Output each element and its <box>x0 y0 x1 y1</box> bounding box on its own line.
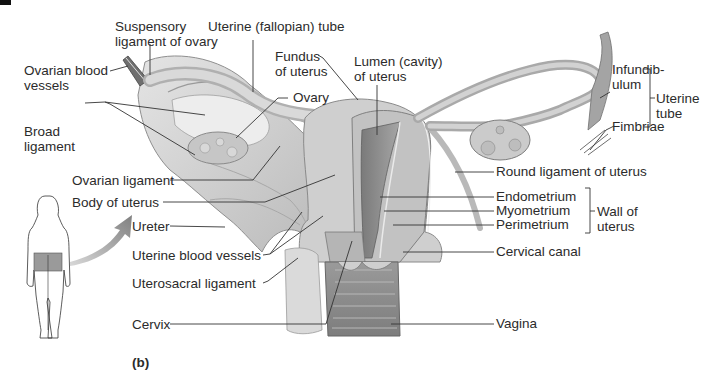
label-line: uterus <box>597 219 638 234</box>
label-infundibulum: Infundib- ulum <box>612 62 665 92</box>
label-line: of uterus <box>275 64 328 79</box>
label-line: Uterine <box>656 91 700 106</box>
label-line: vessels <box>24 78 108 93</box>
label-cervical-canal: Cervical canal <box>496 244 581 259</box>
label-fimbriae: Fimbriae <box>612 119 665 134</box>
label-round-ligament: Round ligament of uterus <box>496 164 647 179</box>
label-endometrium: Endometrium <box>496 189 576 204</box>
female-body-back-view-icon <box>27 196 70 338</box>
uterosacral-ligament-shape <box>285 248 322 334</box>
label-line: Lumen (cavity) <box>354 54 443 69</box>
label-line: Ovarian blood <box>24 63 108 78</box>
label-ovarian-ligament: Ovarian ligament <box>72 173 174 188</box>
label-line: Broad <box>24 124 75 139</box>
label-wall-of-uterus: Wall of uterus <box>597 204 638 234</box>
label-line: Fundus <box>275 49 328 64</box>
curved-arrow-icon <box>70 215 132 266</box>
label-line: Suspensory <box>115 19 218 34</box>
label-uterine-fallopian-tube: Uterine (fallopian) tube <box>208 19 345 34</box>
label-uterine-blood-vessels: Uterine blood vessels <box>132 248 261 263</box>
label-cervix: Cervix <box>132 317 170 332</box>
label-line: ulum <box>612 77 665 92</box>
vagina-shape <box>325 262 400 336</box>
label-uterine-tube-group: Uterine tube <box>656 91 700 121</box>
label-suspensory-ligament: Suspensory ligament of ovary <box>115 19 218 49</box>
label-line: ligament <box>24 139 75 154</box>
label-vagina: Vagina <box>496 316 537 331</box>
label-lumen-of-uterus: Lumen (cavity) of uterus <box>354 54 443 84</box>
label-line: Infundib- <box>612 62 665 77</box>
left-ovary-shape <box>188 132 248 164</box>
label-line: ligament of ovary <box>115 34 218 49</box>
label-myometrium: Myometrium <box>496 203 570 218</box>
label-broad-ligament: Broad ligament <box>24 124 75 154</box>
label-line: tube <box>656 106 700 121</box>
label-ovary: Ovary <box>293 90 329 105</box>
label-ovarian-blood-vessels: Ovarian blood vessels <box>24 63 108 93</box>
right-ovary-shape <box>470 120 530 160</box>
label-perimetrium: Perimetrium <box>496 217 569 232</box>
label-body-of-uterus: Body of uterus <box>72 195 159 210</box>
label-line: of uterus <box>354 69 443 84</box>
panel-label: (b) <box>132 355 149 370</box>
label-line: Wall of <box>597 204 638 219</box>
label-ureter: Ureter <box>132 219 170 234</box>
label-fundus-of-uterus: Fundus of uterus <box>275 49 328 79</box>
label-uterosacral-ligament: Uterosacral ligament <box>132 276 256 291</box>
